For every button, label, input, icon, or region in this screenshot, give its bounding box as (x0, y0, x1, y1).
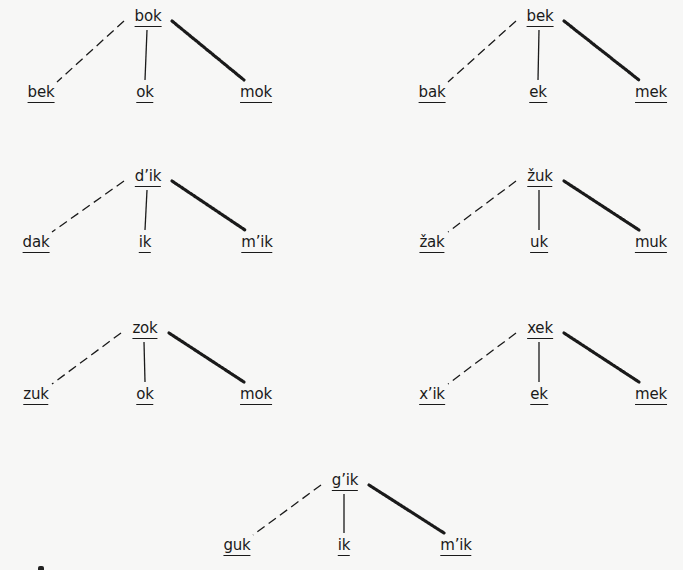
page-mark (38, 566, 44, 570)
leaf-node-left: bak (419, 84, 446, 103)
leaf-node-right: m’ik (241, 234, 272, 253)
leaf-node-left: dak (23, 234, 50, 253)
root-node: bek (527, 8, 554, 27)
leaf-node-middle: uk (530, 234, 548, 253)
root-node: bok (135, 8, 162, 27)
dashed-edge (253, 485, 321, 535)
leaf-node-middle: ek (529, 84, 547, 103)
beaded-edge (564, 181, 639, 230)
leaf-node-right: muk (635, 234, 667, 253)
leaf-node-left: x’ik (419, 386, 445, 405)
leaf-node-right: m’ik (440, 537, 471, 556)
root-node: d’ik (135, 168, 161, 187)
dashed-edge (448, 21, 516, 82)
dashed-edge (57, 21, 124, 82)
beaded-edge (169, 333, 244, 382)
dashed-edge (52, 333, 121, 384)
beaded-edge (369, 485, 444, 533)
root-node: xek (527, 320, 553, 339)
leaf-node-left: bek (28, 84, 55, 103)
beaded-edge (172, 181, 245, 230)
dashed-edge (52, 181, 124, 232)
leaf-node-middle: ik (338, 537, 350, 556)
solid-edge (145, 30, 147, 80)
root-node: g’ik (332, 472, 358, 491)
dashed-edge (448, 181, 516, 232)
leaf-node-middle: ik (139, 234, 151, 253)
solid-edge (538, 30, 539, 80)
leaf-node-right: mek (635, 84, 667, 103)
leaf-node-middle: ok (136, 84, 153, 103)
dashed-edge (448, 333, 516, 384)
leaf-node-right: mok (240, 84, 272, 103)
leaf-node-left: žak (419, 234, 444, 253)
root-node: žuk (527, 168, 552, 187)
leaf-node-right: mek (635, 386, 667, 405)
leaf-node-middle: ok (136, 386, 153, 405)
beaded-edge (564, 333, 639, 382)
leaf-node-left: guk (223, 537, 250, 556)
beaded-edge (172, 21, 244, 80)
root-node: zok (132, 320, 157, 339)
solid-edge (144, 342, 145, 382)
diagram-canvas: bok bek ok mok bek bak ek mek d’ik dak i… (0, 0, 683, 570)
leaf-node-right: mok (240, 386, 272, 405)
leaf-node-middle: ek (530, 386, 548, 405)
beaded-edge (564, 21, 639, 80)
leaf-node-left: zuk (23, 386, 48, 405)
solid-edge (145, 190, 147, 230)
